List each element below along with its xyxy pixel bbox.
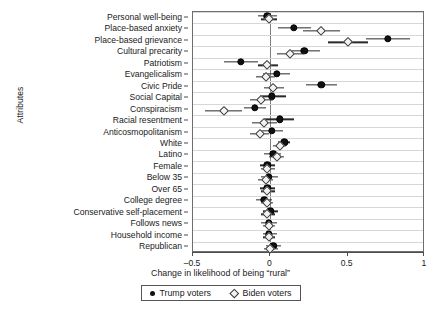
gridline [193,46,423,47]
y-axis-tick [184,51,188,52]
y-axis-tick-label: College degree [124,195,182,206]
y-axis-tick-label: Conspiracism [130,103,182,114]
y-axis-tick-label: Republican [139,241,182,252]
y-axis-tick [184,28,188,29]
y-axis-tick [184,246,188,247]
gridline [193,184,423,185]
gridline [193,12,423,13]
gridline [193,138,423,139]
gridline [193,196,423,197]
gridline [193,161,423,162]
gridline [193,58,423,59]
y-axis-tick-label: White [160,137,182,148]
x-axis-tick [347,252,348,256]
x-axis: –0.500.51 [192,252,424,253]
y-axis-tick-label: Conservative self-placement [74,206,182,217]
gridline [193,207,423,208]
filled-circle-icon [150,291,155,296]
y-axis-tick-label: Over 65 [151,183,182,194]
y-axis-tick [184,188,188,189]
gridline [193,69,423,70]
gridline [193,150,423,151]
legend: Trump voters Biden voters [141,285,301,301]
legend-label-trump: Trump voters [160,288,212,298]
y-axis-tick [184,108,188,109]
gridline [193,242,423,243]
data-point-trump [276,116,283,123]
y-axis-tick-label: Latino [159,149,182,160]
open-diamond-icon [230,288,239,297]
y-axis-tick-label: Follows news [130,218,182,229]
gridline [193,92,423,93]
y-axis-tick [184,211,188,212]
y-axis-tick [184,142,188,143]
gridline [193,230,423,231]
y-axis-tick [184,97,188,98]
y-axis-tick-label: Cultural precarity [117,46,182,57]
y-axis-tick-label: Below 35 [147,172,182,183]
y-axis-tick-label: Place-based grievance [95,34,182,45]
legend-item-biden: Biden voters [231,288,292,298]
y-axis-tick [184,39,188,40]
x-axis-tick-label: 1 [422,258,427,268]
y-axis-tick [184,154,188,155]
y-axis-tick-label: Anticosmopolitanism [103,126,182,137]
data-point-trump [268,127,275,134]
data-point-trump [290,24,297,31]
x-axis-tick [192,252,193,256]
legend-item-trump: Trump voters [150,288,212,298]
gridline [193,219,423,220]
y-axis-tick [184,165,188,166]
data-point-trump [384,35,391,42]
data-point-trump [318,81,325,88]
y-axis-tick-label: Social Capital [129,92,182,103]
y-axis-tick [184,234,188,235]
gridline [193,173,423,174]
x-axis-tick [423,252,424,256]
y-axis-tick [184,223,188,224]
y-axis-tick-label: Racial resentment [113,115,182,126]
y-axis-tick-label: Patriotism [144,57,182,68]
forest-plot-figure: Attributes Personal well-beingPlace-base… [0,0,441,316]
y-axis-tick [184,177,188,178]
y-axis-tick-label: Place-based anxiety [105,23,182,34]
y-axis-tick-label: Evangelicalism [125,69,182,80]
plot-panel [192,11,424,252]
legend-label-biden: Biden voters [243,288,292,298]
data-point-trump [237,58,244,65]
x-axis-tick-label: 0 [267,258,272,268]
y-axis-tick-label: Civic Pride [141,80,182,91]
x-axis-tick-label: 0.5 [341,258,353,268]
x-axis-tick [269,252,270,256]
x-axis-tick-label: –0.5 [184,258,201,268]
gridline [193,127,423,128]
gridline [193,23,423,24]
gridline [193,104,423,105]
gridline [193,115,423,116]
gridline [193,81,423,82]
y-axis-tick [184,74,188,75]
category-label-column: Personal well-beingPlace-based anxietyPl… [16,11,188,252]
data-point-trump [251,104,258,111]
y-axis-tick-label: Female [153,160,182,171]
y-axis-tick [184,200,188,201]
y-axis-tick-label: Personal well-being [107,11,182,22]
y-axis-tick-label: Household income [111,229,182,240]
y-axis-tick [184,85,188,86]
y-axis-tick [184,16,188,17]
y-axis-tick [184,62,188,63]
y-axis-tick [184,131,188,132]
x-axis-title: Change in likelihood of being “rural” [0,268,441,278]
y-axis-tick [184,120,188,121]
